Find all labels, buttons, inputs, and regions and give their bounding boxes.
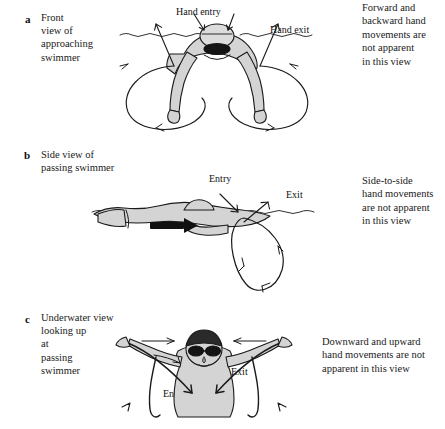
swimmer-torso bbox=[167, 34, 257, 75]
water-line-right bbox=[244, 211, 314, 214]
right-hand-entry-path bbox=[216, 343, 280, 393]
panel-c-letter: c bbox=[25, 314, 30, 325]
swimmer-head bbox=[184, 200, 214, 210]
right-hand-entry-arrowhead bbox=[216, 385, 224, 393]
panel-b-side-view: b Side view of passing swimmer Side-to-s… bbox=[0, 140, 445, 295]
panel-b-caption-left: Side view of passing swimmer bbox=[41, 148, 161, 174]
right-hand-recovery-path bbox=[248, 357, 259, 417]
hand-exit-arrow-left-head bbox=[155, 24, 162, 30]
hand-exit-arrow-left bbox=[156, 24, 174, 66]
left-recovery-arrowhead bbox=[122, 403, 130, 411]
panel-c-underwater-view: c Underwater view looking up at passing … bbox=[0, 295, 445, 429]
panel-b-caption-right: Side-to-side hand movements are not appa… bbox=[362, 174, 445, 228]
travel-direction-arrow bbox=[150, 218, 198, 233]
left-hand-recovery-path bbox=[149, 357, 160, 417]
swimmer-head bbox=[186, 332, 222, 366]
left-arm bbox=[170, 52, 197, 112]
hand-entry-arrow-right-head bbox=[227, 25, 233, 30]
panel-a-front-view: a Front view of approaching swimmer Forw… bbox=[0, 0, 445, 140]
panel-a-letter: a bbox=[25, 14, 31, 25]
left-arm bbox=[128, 339, 182, 367]
panel-b-exit-label: Exit bbox=[286, 190, 303, 200]
panel-a-hand-entry-label: Hand entry bbox=[176, 7, 221, 17]
loop-direction-arrowheads bbox=[239, 246, 283, 292]
right-recovery-arrowhead bbox=[278, 403, 286, 411]
swimmer-chin bbox=[204, 55, 230, 60]
swimmer-legs bbox=[98, 210, 126, 227]
entry-arrow bbox=[220, 194, 238, 212]
right-arm bbox=[237, 52, 264, 112]
water-line bbox=[92, 211, 176, 214]
exit-arrow-head bbox=[261, 202, 270, 209]
hand-entry-arrow-left-head bbox=[199, 25, 204, 30]
entry-arrow-head bbox=[231, 205, 238, 212]
left-hand bbox=[168, 110, 180, 123]
swimmer-nose bbox=[203, 357, 206, 363]
panel-c-caption-left: Underwater view looking up at passing sw… bbox=[41, 311, 133, 377]
exit-arrow bbox=[244, 202, 268, 222]
panel-c-caption-right: Downward and upward hand movements are n… bbox=[322, 335, 445, 375]
swimmer-body-profile bbox=[94, 202, 270, 226]
right-hand bbox=[254, 110, 266, 123]
left-hand-path-loop bbox=[126, 66, 205, 129]
swimmer-cap bbox=[186, 330, 222, 346]
right-arm bbox=[226, 339, 280, 367]
swimmer-mouth bbox=[204, 44, 230, 55]
swimming-stroke-figure: a Front view of approaching swimmer Forw… bbox=[0, 0, 445, 429]
arm-direction-arrows bbox=[142, 338, 266, 363]
swimmer-torso bbox=[174, 345, 234, 417]
panel-c-exit-label: Exit bbox=[231, 367, 248, 377]
hand-entry-arrow-right bbox=[228, 14, 234, 30]
panel-b-entry-label: Entry bbox=[209, 174, 231, 184]
panel-c-entry-label: Entry bbox=[163, 389, 185, 399]
swimmer-mouth bbox=[199, 365, 209, 367]
panel-a-caption-left: Front view of approaching swimmer bbox=[41, 11, 131, 64]
panel-a-hand-exit-label: Hand exit bbox=[270, 25, 309, 35]
swimmer-hip-line bbox=[126, 210, 129, 228]
loop-direction-arrowheads bbox=[120, 64, 298, 131]
panel-a-caption-right: Forward and backward hand movements are … bbox=[362, 1, 445, 68]
right-hand-path-loop bbox=[229, 66, 308, 129]
goggles-icon bbox=[189, 346, 221, 356]
left-hand-entry-path bbox=[128, 343, 192, 393]
right-hand bbox=[278, 337, 292, 347]
swimmer-head bbox=[200, 24, 234, 48]
swimmer-underwater-arm bbox=[186, 222, 228, 235]
hand-path-loop bbox=[232, 218, 284, 290]
water-line bbox=[120, 34, 204, 37]
panel-b-letter: b bbox=[24, 150, 30, 161]
